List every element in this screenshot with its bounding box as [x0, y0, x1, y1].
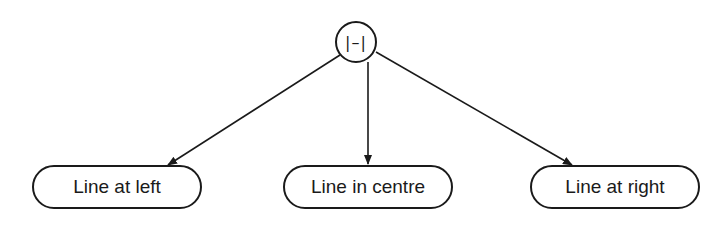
node-label: Line at left	[73, 176, 161, 198]
root-node-line-symbol: |–|	[335, 21, 377, 63]
edge-to-right	[376, 52, 572, 165]
line-symbol-icon: |–|	[345, 33, 367, 52]
node-line-at-right: Line at right	[530, 165, 700, 209]
node-line-at-left: Line at left	[32, 165, 202, 209]
node-label: Line in centre	[311, 176, 425, 198]
node-line-in-centre: Line in centre	[283, 165, 453, 209]
node-label: Line at right	[565, 176, 664, 198]
edge-to-left	[168, 55, 340, 165]
